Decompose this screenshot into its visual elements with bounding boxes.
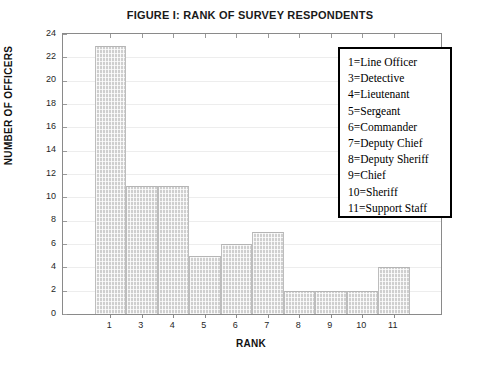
bar [95, 46, 127, 314]
bar [284, 291, 316, 314]
bar [378, 267, 410, 314]
x-tick-mark-top [236, 34, 237, 38]
x-tick-mark [142, 314, 143, 318]
x-tick-label: 3 [126, 321, 156, 330]
x-tick-mark-top [142, 34, 143, 38]
y-tick-mark [63, 127, 67, 128]
x-tick-mark-top [110, 34, 111, 38]
x-tick-mark-top [205, 34, 206, 38]
x-tick-mark-top [362, 34, 363, 38]
bar [315, 291, 347, 314]
legend-entry: 8=Deputy Sheriff [348, 151, 450, 167]
bar [158, 186, 190, 314]
x-tick-mark-top [331, 34, 332, 38]
legend-box: 1=Line Officer3=Detective4=Lieutenant5=S… [338, 47, 452, 218]
bar [189, 256, 221, 314]
x-tick-mark [173, 314, 174, 318]
x-tick-mark [362, 314, 363, 318]
y-tick-label: 16 [16, 122, 56, 131]
y-tick-label: 24 [16, 29, 56, 38]
legend-entry: 4=Lieutenant [348, 86, 450, 102]
y-tick-label: 10 [16, 192, 56, 201]
y-tick-mark [63, 104, 67, 105]
y-tick-mark [63, 174, 67, 175]
figure-container: FIGURE I: RANK OF SURVEY RESPONDENTS 242… [0, 0, 500, 366]
x-tick-mark [394, 314, 395, 318]
x-tick-label: 4 [157, 321, 187, 330]
y-tick-label: 18 [16, 99, 56, 108]
bar [221, 244, 253, 314]
y-axis-title: NUMBER OF OFFICERS [3, 0, 14, 226]
x-axis-title: RANK [62, 338, 440, 349]
x-tick-label: 6 [220, 321, 250, 330]
y-tick-label: 14 [16, 145, 56, 154]
x-tick-mark-top [299, 34, 300, 38]
y-tick-label: 6 [16, 239, 56, 248]
y-tick-mark [63, 34, 67, 35]
x-tick-mark [268, 314, 269, 318]
x-tick-mark [299, 314, 300, 318]
bar [252, 232, 284, 314]
y-tick-label: 4 [16, 262, 56, 271]
legend-entry: 3=Detective [348, 70, 450, 86]
y-tick-label: 12 [16, 169, 56, 178]
y-tick-mark [63, 151, 67, 152]
legend-entry: 1=Line Officer [348, 54, 450, 70]
x-tick-label: 9 [315, 321, 345, 330]
y-tick-label: 22 [16, 52, 56, 61]
x-tick-mark [110, 314, 111, 318]
x-tick-mark-top [268, 34, 269, 38]
x-tick-label: 5 [189, 321, 219, 330]
x-tick-label: 11 [378, 321, 408, 330]
y-tick-mark [63, 81, 67, 82]
x-tick-label: 7 [252, 321, 282, 330]
x-tick-mark-top [173, 34, 174, 38]
legend-entry: 5=Sergeant [348, 103, 450, 119]
x-tick-mark [236, 314, 237, 318]
y-tick-label: 0 [16, 309, 56, 318]
y-tick-mark [63, 291, 67, 292]
bar [347, 291, 379, 314]
legend-entry: 9=Chief [348, 167, 450, 183]
y-tick-mark [63, 244, 67, 245]
y-tick-label: 2 [16, 285, 56, 294]
y-tick-label: 20 [16, 75, 56, 84]
y-tick-mark [63, 57, 67, 58]
x-tick-label: 1 [94, 321, 124, 330]
y-tick-mark [63, 314, 67, 315]
y-tick-mark [63, 267, 67, 268]
x-tick-label: 10 [346, 321, 376, 330]
legend-entry: 6=Commander [348, 119, 450, 135]
x-tick-mark [205, 314, 206, 318]
y-tick-label: 8 [16, 215, 56, 224]
x-tick-mark [331, 314, 332, 318]
page-title: FIGURE I: RANK OF SURVEY RESPONDENTS [0, 9, 500, 21]
x-tick-label: 8 [283, 321, 313, 330]
legend-entry: 7=Deputy Chief [348, 135, 450, 151]
legend-entry: 10=Sheriff [348, 184, 450, 200]
x-tick-mark-top [394, 34, 395, 38]
legend-entry: 11=Support Staff [348, 200, 450, 216]
y-tick-mark [63, 221, 67, 222]
bar [126, 186, 158, 314]
y-tick-mark [63, 197, 67, 198]
